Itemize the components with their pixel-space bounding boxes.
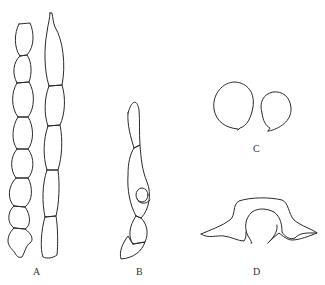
- inner-arc: [268, 225, 277, 243]
- panel-b-conidiophore: [120, 102, 150, 259]
- cell: [13, 82, 34, 117]
- cell: [44, 125, 62, 170]
- spore: [214, 82, 254, 130]
- panel-c-spores: [214, 82, 291, 131]
- spore: [261, 92, 291, 131]
- cell: [9, 178, 31, 207]
- panel-d-structure: [201, 198, 317, 243]
- panel-a-chain-left: [8, 23, 33, 257]
- cell: [9, 206, 30, 229]
- cell: [45, 13, 64, 86]
- cell: [12, 149, 33, 178]
- cell: [120, 236, 145, 259]
- panel-a-chain-right: [41, 13, 64, 258]
- inclusion-outline: [137, 199, 150, 203]
- figure: A B C D: [0, 0, 325, 285]
- cell: [45, 85, 64, 126]
- right-arm: [268, 233, 317, 243]
- cell: [8, 228, 32, 257]
- cell: [13, 117, 33, 149]
- panel-label-b: B: [136, 266, 143, 277]
- cell: [15, 23, 33, 56]
- cell: [41, 216, 57, 258]
- illustration: [0, 0, 325, 285]
- panel-label-c: C: [253, 143, 260, 154]
- cell: [128, 145, 150, 218]
- panel-label-a: A: [33, 266, 40, 277]
- cell: [130, 216, 147, 244]
- cell: [43, 170, 59, 217]
- cell: [14, 55, 31, 83]
- left-arm: [201, 232, 246, 241]
- cell: [128, 102, 140, 148]
- panel-label-d: D: [253, 266, 260, 277]
